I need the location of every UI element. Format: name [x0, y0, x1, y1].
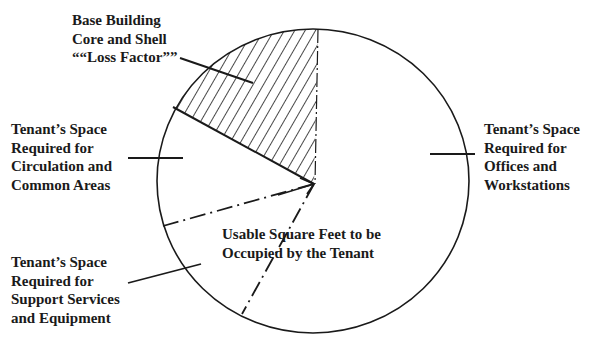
label-line: Core and Shell	[72, 30, 177, 49]
label-support: Tenant’s Space Required for Support Serv…	[11, 253, 120, 327]
label-line: Tenant’s Space	[484, 120, 580, 139]
label-offices: Tenant’s Space Required for Offices and …	[484, 120, 580, 194]
label-line: Tenant’s Space	[11, 253, 120, 272]
label-line: Required for	[484, 139, 580, 158]
label-line: Common Areas	[11, 176, 112, 195]
label-line: Usable Square Feet to be	[222, 225, 381, 244]
label-line: Tenant’s Space	[11, 120, 112, 139]
label-line: and Equipment	[11, 309, 120, 328]
label-circulation: Tenant’s Space Required for Circulation …	[11, 120, 112, 194]
label-line: Support Services	[11, 290, 120, 309]
label-line: Base Building	[72, 11, 177, 30]
label-usable: Usable Square Feet to be Occupied by the…	[222, 225, 381, 262]
label-line: Occupied by the Tenant	[222, 244, 381, 263]
label-line: ““Loss Factor””	[72, 48, 177, 67]
label-line: Workstations	[484, 176, 580, 195]
label-line: Offices and	[484, 157, 580, 176]
label-line: Required for	[11, 139, 112, 158]
label-line: Required for	[11, 272, 120, 291]
label-loss-factor: Base Building Core and Shell ““Loss Fact…	[72, 11, 177, 67]
label-line: Circulation and	[11, 157, 112, 176]
